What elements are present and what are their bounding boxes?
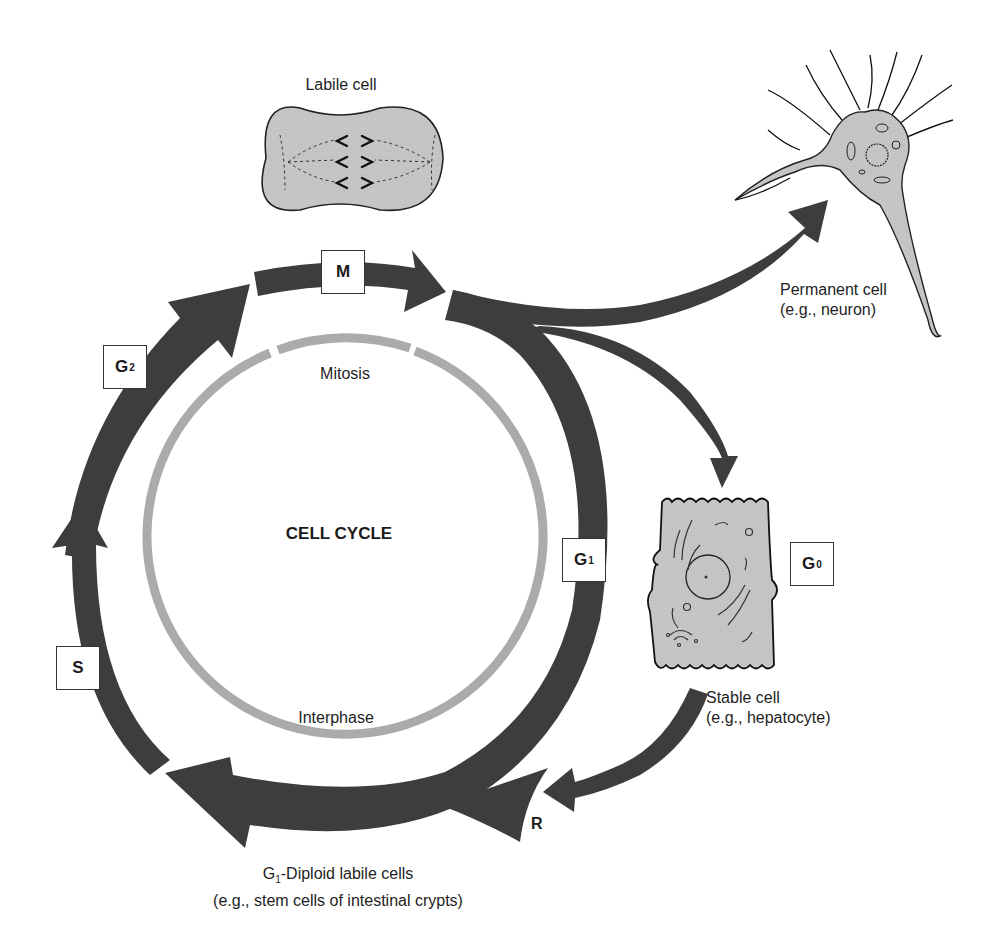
phase-box-g0: G0 xyxy=(790,542,834,586)
phase-g0-subscript: 0 xyxy=(816,559,822,570)
labile-g1-caption-line1: G1-Diploid labile cells xyxy=(213,863,463,890)
stable-cell-label: Stable cell (e.g., hepatocyte) xyxy=(706,688,831,728)
cell-cycle-title: CELL CYCLE xyxy=(286,524,392,544)
labile-cell-label: Labile cell xyxy=(305,75,376,94)
labile-g1-caption: G1-Diploid labile cells (e.g., stem cell… xyxy=(213,863,463,911)
interphase-label: Interphase xyxy=(298,708,374,727)
phase-s-label: S xyxy=(72,658,83,678)
phase-g0-letter: G xyxy=(802,554,815,574)
phase-box-g1: G1 xyxy=(562,538,606,582)
phase-g2-letter: G xyxy=(115,357,128,377)
phase-g2-subscript: 2 xyxy=(129,362,135,373)
stable-cell-name: Stable cell xyxy=(706,688,831,708)
permanent-cell-example: (e.g., neuron) xyxy=(780,300,887,320)
diagram-graphics xyxy=(0,0,994,932)
permanent-cell-label: Permanent cell (e.g., neuron) xyxy=(780,280,887,320)
restriction-point-label: R xyxy=(531,815,543,833)
caption-line1-text: -Diploid labile cells xyxy=(281,865,414,882)
phase-box-m: M xyxy=(321,250,365,294)
phase-g1-subscript: 1 xyxy=(588,555,594,566)
hepatocyte-illustration xyxy=(648,499,777,669)
phase-m-label: M xyxy=(336,262,350,282)
phase-g1-letter: G xyxy=(574,550,587,570)
stable-cell-example: (e.g., hepatocyte) xyxy=(706,708,831,728)
phase-box-s: S xyxy=(56,646,100,690)
labile-g1-caption-line2: (e.g., stem cells of intestinal crypts) xyxy=(213,890,463,911)
caption-g-letter: G xyxy=(263,865,275,882)
cell-cycle-diagram: Labile cell Permanent cell (e.g., neuron… xyxy=(0,0,994,932)
mitosis-label: Mitosis xyxy=(320,364,370,383)
permanent-cell-name: Permanent cell xyxy=(780,280,887,300)
labile-cell-illustration xyxy=(262,107,443,210)
phase-box-g2: G2 xyxy=(103,345,147,389)
